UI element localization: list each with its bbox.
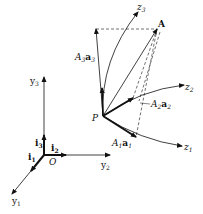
curvilinear-frame — [96, 12, 184, 146]
svg-text:y1: y1 — [11, 196, 21, 207]
fixed-frame — [12, 77, 110, 194]
A1a1-component — [103, 116, 136, 137]
dash-2 — [133, 29, 157, 98]
svg-text:A3a3: A3a3 — [74, 52, 95, 63]
z3-curve — [103, 12, 138, 116]
svg-text:i2: i2 — [51, 143, 59, 154]
svg-text:A: A — [157, 19, 166, 29]
svg-text:A1a1: A1a1 — [111, 138, 132, 149]
svg-text:z3: z3 — [136, 2, 146, 13]
A2a2-leader — [140, 103, 150, 104]
svg-text:A2a2: A2a2 — [150, 99, 171, 110]
svg-text:y2: y2 — [100, 160, 110, 171]
a3-unit — [102, 88, 103, 116]
svg-text:y3: y3 — [29, 76, 39, 87]
svg-text:O: O — [49, 157, 57, 167]
vector-A — [103, 29, 157, 116]
svg-text:P: P — [91, 113, 99, 123]
svg-text:z1: z1 — [183, 142, 193, 153]
z2-curve — [103, 85, 184, 116]
svg-text:i1: i1 — [28, 152, 36, 163]
diagram-canvas: O P A y3 y2 y1 i3 i2 i1 z3 z2 z1 A3a3 A2… — [0, 0, 203, 214]
svg-text:i3: i3 — [35, 138, 43, 149]
A2a2-component — [103, 98, 133, 116]
svg-text:z2: z2 — [184, 82, 194, 93]
